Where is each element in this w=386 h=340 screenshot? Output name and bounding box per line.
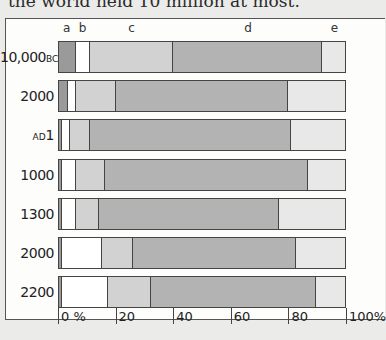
bar-segment-d bbox=[173, 42, 322, 72]
bar-segment-a bbox=[59, 81, 68, 111]
bar-segment-e bbox=[288, 81, 345, 111]
row-label: 1000 bbox=[0, 167, 54, 183]
bar-segment-b bbox=[76, 42, 90, 72]
axis-tick bbox=[288, 308, 289, 324]
stacked-bar-row bbox=[58, 80, 346, 112]
axis-tick-label: 40 bbox=[176, 309, 193, 324]
bar-segment-d bbox=[133, 238, 296, 268]
row-label: 2000 bbox=[0, 88, 54, 104]
bar-segment-c bbox=[102, 238, 133, 268]
legend-label-b: b bbox=[79, 21, 87, 35]
stacked-bar-row bbox=[58, 198, 346, 230]
bar-segment-e bbox=[296, 238, 345, 268]
bar-segment-b bbox=[62, 238, 102, 268]
stacked-bar-row bbox=[58, 41, 346, 73]
bar-segment-d bbox=[151, 277, 317, 307]
axis-tick-label: 60 bbox=[234, 309, 251, 324]
axis-tick-label: 80 bbox=[291, 309, 308, 324]
bar-segment-d bbox=[105, 160, 308, 190]
bar-segment-c bbox=[90, 42, 173, 72]
bar-segment-b bbox=[62, 199, 76, 229]
bar-segment-a bbox=[59, 42, 76, 72]
bar-segment-c bbox=[76, 160, 105, 190]
axis-tick bbox=[231, 308, 232, 324]
axis-tick bbox=[173, 308, 174, 324]
bar-segment-d bbox=[116, 81, 288, 111]
stacked-bar-row bbox=[58, 119, 346, 151]
axis-tick bbox=[346, 308, 347, 324]
bar-segment-e bbox=[279, 199, 345, 229]
axis-tick bbox=[116, 308, 117, 324]
row-label: 2200 bbox=[0, 284, 54, 300]
axis-tick-label: 0 % bbox=[61, 309, 86, 324]
legend-label-c: c bbox=[128, 21, 135, 35]
bar-segment-d bbox=[99, 199, 279, 229]
bar-segment-e bbox=[291, 120, 345, 150]
stacked-bar-row bbox=[58, 276, 346, 308]
bar-segment-e bbox=[322, 42, 345, 72]
bar-segment-d bbox=[90, 120, 290, 150]
axis-tick-label: 20 bbox=[119, 309, 136, 324]
bar-segment-c bbox=[76, 199, 99, 229]
row-label: 1300 bbox=[0, 206, 54, 222]
stacked-bar-row bbox=[58, 159, 346, 191]
bar-segment-b bbox=[62, 120, 71, 150]
bar-segment-b bbox=[62, 277, 108, 307]
bar-segment-e bbox=[316, 277, 345, 307]
axis-tick bbox=[58, 308, 59, 324]
legend-label-a: a bbox=[63, 21, 70, 35]
row-label: 2000 bbox=[0, 245, 54, 261]
bar-segment-c bbox=[76, 81, 116, 111]
bar-segment-c bbox=[108, 277, 151, 307]
bar-segment-b bbox=[62, 160, 76, 190]
bar-segment-e bbox=[308, 160, 345, 190]
caption-text: the world held 10 million at most. bbox=[8, 0, 300, 11]
bar-segment-b bbox=[68, 81, 77, 111]
stacked-bar-row bbox=[58, 237, 346, 269]
axis-tick-label: 100% bbox=[349, 309, 386, 324]
row-label: AD1 bbox=[0, 127, 54, 143]
legend-label-d: d bbox=[244, 21, 252, 35]
legend-label-e: e bbox=[331, 21, 338, 35]
bar-segment-c bbox=[70, 120, 90, 150]
row-label: 10,000BC bbox=[0, 49, 54, 65]
